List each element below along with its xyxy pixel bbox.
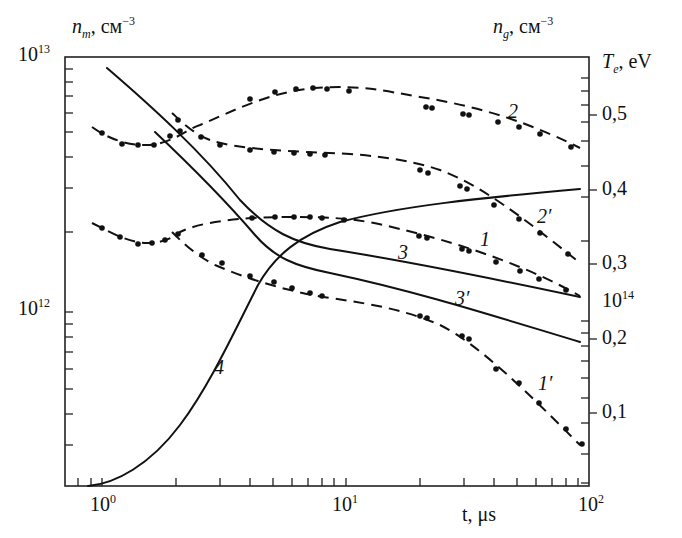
te-title-unit: , eV <box>618 50 651 72</box>
te-axis-title: Te, eV <box>602 50 652 77</box>
y13-base: 10 <box>18 43 38 65</box>
y-left-title-unit: , см <box>91 15 123 37</box>
curve-label-1: 1 <box>480 228 490 251</box>
x0-exp: 0 <box>110 492 116 506</box>
curve-1-prime <box>172 232 580 445</box>
curve-3-prime <box>155 132 580 342</box>
curve-2-prime <box>172 113 580 263</box>
x0-base: 10 <box>90 493 110 515</box>
x1-exp: 1 <box>352 492 358 506</box>
x-tick-1e0: 100 <box>90 492 116 516</box>
te-tick-0-5: 0,5 <box>602 102 627 125</box>
x-axis-ticks <box>78 478 578 486</box>
y14-base: 10 <box>602 289 622 311</box>
curve-2 <box>92 87 580 148</box>
te-tick-0-2: 0,2 <box>602 326 627 349</box>
curve-label-2: 2 <box>508 100 518 123</box>
y12-base: 10 <box>18 297 38 319</box>
x-tick-1e2: 102 <box>578 492 604 516</box>
y-left-title-sub: m <box>82 27 91 41</box>
y-left-title-var: n <box>72 15 82 37</box>
te-tick-0-4: 0,4 <box>602 177 627 200</box>
chart-canvas <box>0 0 682 538</box>
te-title-var: T <box>602 50 613 72</box>
te-tick-0-1: 0,1 <box>602 400 627 423</box>
y14-exp: 14 <box>622 288 634 302</box>
x2-exp: 2 <box>598 492 604 506</box>
curve-label-1-prime: 1′ <box>538 372 552 395</box>
y-left-title-exp: −3 <box>122 14 135 28</box>
y-right-title-exp: −3 <box>541 14 554 28</box>
x-tick-1e1: 101 <box>332 492 358 516</box>
curve-label-3-prime: 3′ <box>455 287 469 310</box>
y-right-title-var: n <box>493 15 503 37</box>
curve-1 <box>92 217 580 296</box>
y-right-tick-1e14: 1014 <box>602 288 634 312</box>
y13-exp: 13 <box>38 42 50 56</box>
y-right-title: ng, см−3 <box>493 14 553 42</box>
y-right-title-unit: , см <box>509 15 541 37</box>
y-left-title: nm, см−3 <box>72 14 135 42</box>
curve-label-2-prime: 2′ <box>537 205 551 228</box>
curve-label-3: 3 <box>398 241 408 264</box>
y12-exp: 12 <box>38 296 50 310</box>
data-markers <box>99 85 585 447</box>
x1-base: 10 <box>332 493 352 515</box>
x2-base: 10 <box>578 493 598 515</box>
te-tick-0-3: 0,3 <box>602 251 627 274</box>
y-left-axis-ticks <box>65 69 73 445</box>
curve-label-4: 4 <box>214 356 224 379</box>
y-tick-1e12: 1012 <box>18 296 50 320</box>
y-tick-1e13: 1013 <box>18 42 50 66</box>
x-axis-title: t, μs <box>462 503 496 526</box>
curve-4 <box>88 189 580 486</box>
